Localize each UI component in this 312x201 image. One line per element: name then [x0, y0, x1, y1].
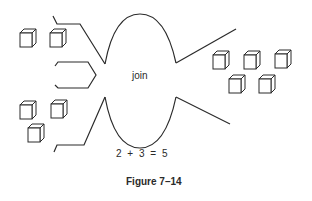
left-bottom-cube-group	[20, 100, 67, 142]
equation-text: 2 + 3 = 5	[116, 148, 169, 159]
cube-icon	[213, 51, 229, 69]
cube-icon	[275, 50, 291, 68]
cube-icon	[50, 29, 66, 47]
cube-icon	[20, 29, 36, 47]
join-label: join	[132, 70, 148, 81]
cube-icon	[20, 101, 36, 119]
cube-icon	[51, 100, 67, 118]
join-oval-bottom	[105, 97, 176, 148]
figure-caption: Figure 7–14	[126, 176, 182, 187]
cube-icon	[229, 75, 245, 93]
join-diagram	[0, 0, 312, 201]
cube-icon	[259, 75, 275, 93]
cube-icon	[244, 51, 260, 69]
left-top-cube-group	[20, 29, 66, 47]
output-funnel-bottom	[176, 97, 230, 124]
middle-chevron	[55, 62, 96, 88]
cube-icon	[28, 124, 44, 142]
join-oval-top	[105, 14, 176, 64]
right-cube-group	[213, 50, 291, 93]
